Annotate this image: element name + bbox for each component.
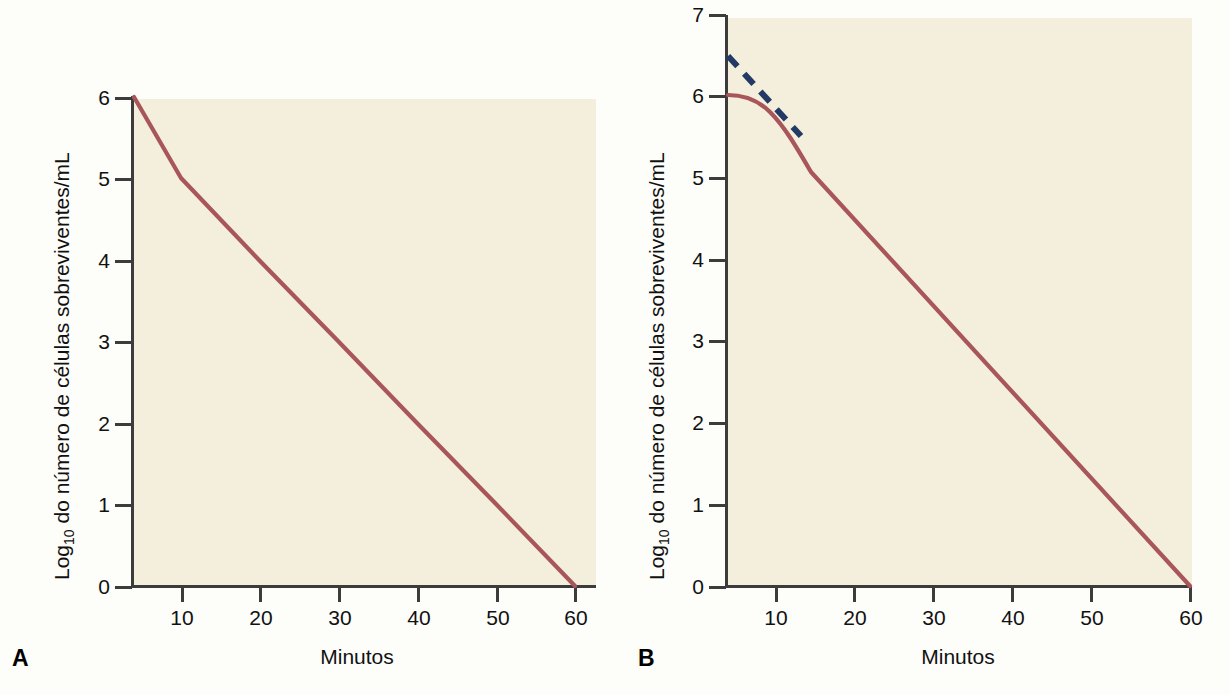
survival-curve-b (728, 95, 1190, 586)
curve-layer-b (615, 0, 1230, 695)
scanned-page: ter, por 8.4, o número de sobreviventes … (0, 0, 1230, 695)
survival-curve-a (134, 97, 575, 586)
panel-letter-a: A (12, 645, 29, 672)
curve-layer-a (0, 0, 615, 695)
panel-letter-b: B (638, 645, 655, 672)
panel-a: 0 1 2 3 4 5 6 10 20 30 40 50 60 Minutos … (0, 0, 615, 695)
panel-b: 0 1 2 3 4 5 6 7 10 20 30 40 50 60 Minuto… (615, 0, 1230, 695)
